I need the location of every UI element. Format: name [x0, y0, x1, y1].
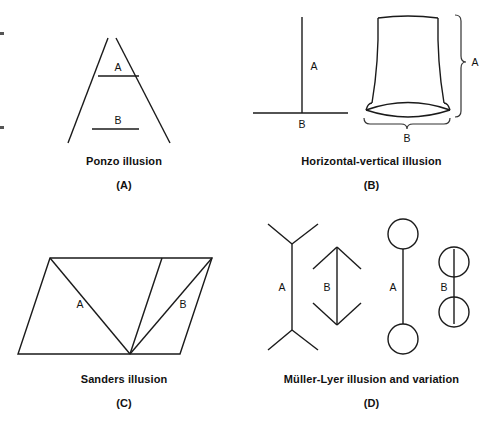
panel-caption-ponzo: Ponzo illusion	[0, 155, 248, 167]
ml-var-label-a: A	[389, 281, 396, 293]
illusions-figure: A B Ponzo illusion (A) A B A B	[0, 0, 495, 424]
sanders-diagonal-b	[130, 258, 212, 354]
panel-caption-horizontal-vertical: Horizontal-vertical illusion	[248, 155, 495, 167]
panel-ponzo: A B Ponzo illusion (A)	[0, 0, 248, 212]
ponzo-right-rail	[116, 38, 170, 143]
hv-table-label-a: A	[471, 56, 478, 68]
hv-label-a: A	[310, 60, 317, 72]
brace-horizontal	[364, 118, 450, 129]
ml-fin-a-top-right	[292, 224, 318, 244]
ml-label-a: A	[278, 281, 285, 293]
ponzo-left-rail	[68, 38, 108, 143]
muller-lyer-drawing: A B A B	[248, 212, 495, 367]
table-base-bottom-curve	[366, 110, 450, 117]
ponzo-label-b: B	[114, 114, 121, 126]
ponzo-drawing: A B	[0, 0, 248, 150]
table-top-edge	[378, 16, 438, 18]
horizontal-vertical-drawing: A B A B	[248, 0, 495, 150]
ml-fin-b-top-right	[337, 247, 361, 269]
panel-horizontal-vertical: A B A B Horizontal-vertical illusion (B)	[248, 0, 495, 212]
ml-var-a-circle-bottom	[388, 324, 418, 354]
hv-table-label-b: B	[403, 132, 410, 144]
panel-caption-muller-lyer: Müller-Lyer illusion and variation	[248, 373, 495, 385]
sanders-drawing: A B	[0, 212, 248, 367]
ml-fin-a-top-left	[268, 224, 292, 244]
panel-letter-a: (A)	[0, 179, 248, 191]
ml-fin-b-bottom-right	[337, 303, 361, 325]
panel-letter-c: (C)	[0, 397, 248, 409]
sanders-diagonal-a	[50, 258, 130, 354]
panel-letter-b: (B)	[248, 179, 495, 191]
ml-var-label-b: B	[440, 281, 447, 293]
ml-fin-a-bottom-right	[292, 330, 318, 350]
sanders-inner-divider	[130, 258, 162, 354]
ml-fin-a-bottom-left	[268, 330, 292, 350]
ponzo-label-a: A	[114, 61, 121, 73]
sanders-label-b: B	[179, 298, 186, 310]
ml-fin-b-top-left	[313, 247, 337, 269]
table-right-edge	[438, 18, 444, 103]
panel-muller-lyer: A B A B Müller-Lyer illusion and variati…	[248, 212, 495, 424]
panel-caption-sanders: Sanders illusion	[0, 373, 248, 385]
panel-letter-d: (D)	[248, 397, 495, 409]
ml-label-b: B	[323, 281, 330, 293]
panel-sanders: A B Sanders illusion (C)	[0, 212, 248, 424]
hv-label-b: B	[298, 118, 305, 130]
table-base-top-curve	[366, 103, 450, 111]
brace-vertical	[455, 15, 466, 117]
sanders-label-a: A	[76, 298, 83, 310]
table-left-edge	[372, 18, 378, 103]
ml-fin-b-bottom-left	[313, 303, 337, 325]
ml-var-a-circle-top	[388, 219, 418, 249]
